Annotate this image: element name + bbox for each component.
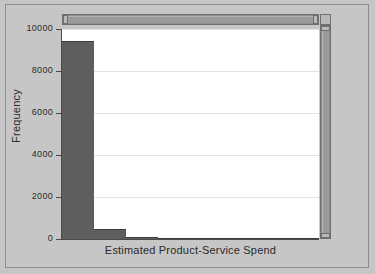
x-axis-line — [61, 239, 319, 240]
vertical-scrollbar[interactable] — [320, 25, 331, 239]
chart-window: 0200040006000800010000 Frequency Estimat… — [0, 0, 375, 274]
y-axis-tick — [56, 239, 61, 240]
scroll-left-arrow[interactable] — [63, 15, 68, 24]
y-axis-label: Frequency — [10, 66, 22, 166]
y-axis-tick-label: 10000 — [11, 24, 53, 33]
y-axis-tick — [56, 197, 61, 198]
scroll-up-arrow[interactable] — [321, 26, 330, 31]
histogram-bars — [62, 29, 319, 239]
y-axis-line — [61, 29, 62, 240]
y-axis-tick-label: 0 — [11, 234, 53, 243]
scroll-right-arrow[interactable] — [313, 15, 318, 24]
scroll-down-arrow[interactable] — [321, 233, 330, 238]
y-axis-tick — [56, 155, 61, 156]
histogram-bar — [94, 229, 126, 239]
y-axis-tick — [56, 29, 61, 30]
histogram-bar — [62, 41, 94, 239]
vertical-scrollbar-thumb[interactable] — [322, 27, 329, 237]
horizontal-scrollbar-thumb[interactable] — [64, 16, 317, 23]
y-axis-tick — [56, 71, 61, 72]
y-axis-tick-label: 2000 — [11, 192, 53, 201]
y-axis-tick — [56, 113, 61, 114]
scrollbar-corner — [320, 14, 331, 25]
x-axis-label: Estimated Product-Service Spend — [62, 244, 319, 256]
horizontal-scrollbar[interactable] — [62, 14, 319, 25]
